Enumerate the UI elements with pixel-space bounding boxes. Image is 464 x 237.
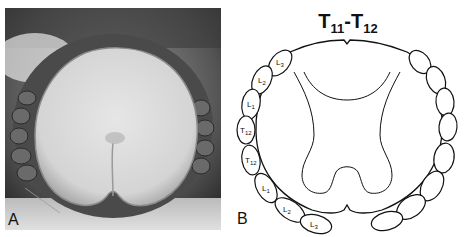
diagram-title: T11-T12 xyxy=(318,10,377,36)
panel-a-photo: A xyxy=(5,8,221,230)
panel-b-diagram: T11-T12 L3 L2 L1 T12 T12 L1 L2 L3 B xyxy=(232,0,464,237)
spinal-cord-section xyxy=(35,48,197,206)
right-nerve-roots xyxy=(369,46,458,234)
panel-a-label: A xyxy=(8,211,19,228)
gray-matter-outline xyxy=(294,72,400,193)
panel-b-label: B xyxy=(237,210,248,227)
